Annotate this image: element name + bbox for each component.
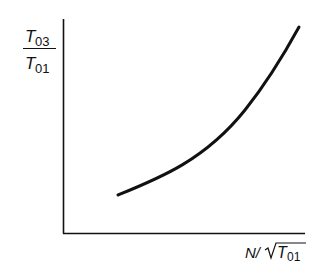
x-axis-label: N/ T 01 xyxy=(245,243,306,264)
y-axis-label: T 03 T 01 xyxy=(23,27,56,76)
x-label-subscript: 01 xyxy=(287,250,301,264)
data-curve xyxy=(118,27,299,195)
y-numerator-subscript: 03 xyxy=(35,34,49,49)
x-label-prefix: N/ xyxy=(245,244,262,261)
chart: T 03 T 01 N/ T 01 xyxy=(0,0,329,277)
y-denominator-subscript: 01 xyxy=(35,61,49,76)
